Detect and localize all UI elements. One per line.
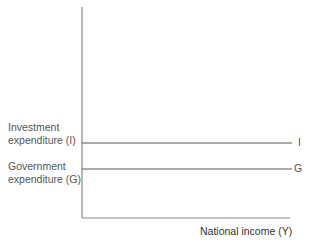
government-axis-label: Government expenditure (G) [8,160,81,186]
x-axis-label: National income (Y) [200,225,292,238]
investment-axis-label: Investment expenditure (I) [8,121,76,147]
government-line-label: G [294,162,302,175]
investment-line-label: I [298,136,301,149]
